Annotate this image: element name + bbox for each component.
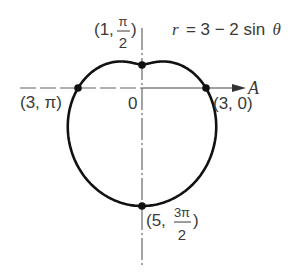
svg-text:3π: 3π: [174, 205, 190, 220]
point-left: [74, 84, 82, 92]
svg-text:2: 2: [119, 34, 127, 51]
origin-label: 0: [128, 94, 137, 113]
point-bottom: [138, 202, 146, 210]
svg-text:(5,: (5,: [146, 211, 166, 230]
label-top: (1, π 2 ): [94, 14, 137, 51]
svg-text:): ): [131, 20, 137, 39]
label-bottom: (5, 3π 2 ): [146, 205, 199, 243]
svg-text:2: 2: [178, 226, 186, 243]
polar-axis-label: A: [247, 78, 260, 98]
polar-axis-arrow-icon: [232, 84, 246, 92]
svg-text:): ): [193, 211, 199, 230]
point-top: [138, 61, 146, 69]
svg-text:(1,: (1,: [94, 20, 114, 39]
svg-text:π: π: [119, 14, 128, 29]
equation-label: r = 3 − 2 sin θ: [172, 20, 281, 39]
label-right: (3, 0): [213, 94, 253, 113]
polar-graph: r = 3 − 2 sin θ (1, π 2 ) (3, π) 0 (3, 0…: [0, 0, 290, 273]
label-left: (3, π): [20, 93, 62, 112]
point-right: [202, 84, 210, 92]
